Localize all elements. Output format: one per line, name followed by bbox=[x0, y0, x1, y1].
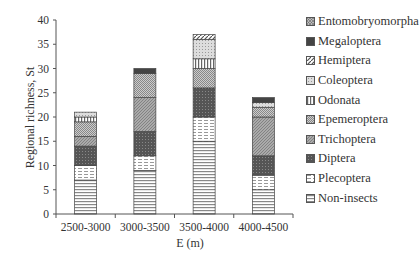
x-axis-label: E (m) bbox=[150, 236, 230, 251]
legend-swatch-icon bbox=[306, 17, 315, 26]
bar-stack bbox=[75, 112, 97, 214]
x-tick-label: 2500-3000 bbox=[61, 221, 111, 233]
y-tick-label: 30 bbox=[38, 63, 50, 75]
y-tick-label: 40 bbox=[38, 14, 50, 26]
legend-label: Epemeroptera bbox=[318, 112, 388, 127]
bar-stack bbox=[252, 98, 274, 214]
legend-swatch-icon bbox=[306, 115, 315, 124]
legend-label: Odonata bbox=[318, 93, 360, 108]
legend-item: Diptera bbox=[306, 149, 420, 169]
legend-item: Coleoptera bbox=[306, 71, 420, 91]
legend-label: Coleoptera bbox=[318, 73, 373, 88]
legend-item: Trichoptera bbox=[306, 130, 420, 150]
bars bbox=[75, 35, 275, 214]
legend-label: Entomobryomorpha bbox=[318, 14, 419, 29]
bar-segment-trichoptera bbox=[75, 136, 97, 146]
legend-label: Non-insects bbox=[318, 191, 378, 206]
bar-stack bbox=[193, 35, 215, 214]
bar-segment-plecoptera bbox=[193, 117, 215, 141]
legend-label: Trichoptera bbox=[318, 132, 376, 147]
legend-item: Entomobryomorpha bbox=[306, 12, 420, 32]
y-tick-label: 0 bbox=[43, 208, 49, 220]
y-tick-label: 20 bbox=[38, 111, 50, 123]
bar-segment-diptera bbox=[134, 132, 156, 156]
legend-swatch-icon bbox=[306, 96, 315, 105]
legend-swatch-icon bbox=[306, 154, 315, 163]
legend-item: Epemeroptera bbox=[306, 110, 420, 130]
legend-swatch-icon bbox=[306, 174, 315, 183]
y-tick-label: 25 bbox=[38, 87, 50, 99]
bar-segment-hemiptera bbox=[193, 35, 215, 40]
legend-swatch-icon bbox=[306, 135, 315, 144]
legend-item: Odonata bbox=[306, 90, 420, 110]
bar-segment-non-insects bbox=[134, 170, 156, 214]
bar-segment-epemeroptera bbox=[75, 122, 97, 137]
bar-segment-trichoptera bbox=[134, 98, 156, 132]
bar-segment-non-insects bbox=[252, 190, 274, 214]
legend-label: Megaloptera bbox=[318, 34, 381, 49]
bar-segment-epemeroptera bbox=[193, 69, 215, 88]
legend-item: Plecoptera bbox=[306, 169, 420, 189]
legend-swatch-icon bbox=[306, 76, 315, 85]
legend-swatch-icon bbox=[306, 194, 315, 203]
bar-segment-trichoptera bbox=[252, 117, 274, 156]
bar-segment-megaloptera bbox=[134, 69, 156, 74]
bar-segment-epemeroptera bbox=[252, 107, 274, 117]
bar-segment-coleoptera bbox=[193, 39, 215, 58]
bar-segment-megaloptera bbox=[252, 98, 274, 103]
legend-item: Megaloptera bbox=[306, 32, 420, 52]
x-tick-label: 3000-3500 bbox=[120, 221, 170, 233]
x-tick-label: 4000-4500 bbox=[238, 221, 288, 233]
legend: EntomobryomorphaMegalopteraHemipteraCole… bbox=[306, 12, 420, 208]
y-tick-label: 15 bbox=[38, 135, 50, 147]
legend-label: Hemiptera bbox=[318, 53, 371, 68]
legend-swatch-icon bbox=[306, 37, 315, 46]
bar-segment-diptera bbox=[75, 146, 97, 165]
y-tick-label: 35 bbox=[38, 38, 50, 50]
bar-segment-coleoptera bbox=[252, 102, 274, 107]
bar-stack bbox=[134, 69, 156, 215]
bar-segment-epemeroptera bbox=[134, 73, 156, 97]
bar-segment-diptera bbox=[193, 88, 215, 117]
legend-label: Plecoptera bbox=[318, 171, 371, 186]
bar-segment-non-insects bbox=[193, 141, 215, 214]
bar-segment-plecoptera bbox=[252, 175, 274, 190]
legend-label: Diptera bbox=[318, 151, 355, 166]
bar-segment-plecoptera bbox=[75, 166, 97, 181]
x-tick-label: 3500-4000 bbox=[179, 221, 229, 233]
bar-segment-plecoptera bbox=[134, 156, 156, 171]
legend-swatch-icon bbox=[306, 56, 315, 65]
y-axis-label: Regional richness, St bbox=[23, 58, 38, 178]
legend-item: Hemiptera bbox=[306, 51, 420, 71]
bar-segment-diptera bbox=[252, 156, 274, 175]
bar-segment-odonata bbox=[193, 59, 215, 69]
bar-segment-coleoptera bbox=[75, 112, 97, 117]
bar-segment-odonata bbox=[75, 117, 97, 122]
y-tick-label: 5 bbox=[43, 184, 49, 196]
y-tick-label: 10 bbox=[38, 160, 50, 172]
legend-item: Non-insects bbox=[306, 188, 420, 208]
bar-segment-non-insects bbox=[75, 180, 97, 214]
